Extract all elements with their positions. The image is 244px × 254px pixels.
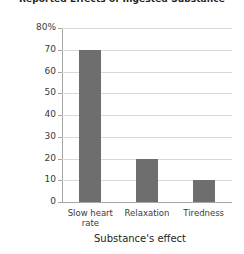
gridline bbox=[62, 28, 232, 29]
y-axis-tick bbox=[58, 159, 62, 160]
y-axis-tick-label: 20 bbox=[10, 154, 56, 163]
y-axis-tick-labels: 01020304050607080% bbox=[8, 0, 56, 254]
y-axis-tick bbox=[58, 72, 62, 73]
y-axis-tick-label: 70 bbox=[10, 45, 56, 54]
gridline bbox=[62, 202, 232, 203]
y-axis-tick bbox=[58, 28, 62, 29]
y-axis-tick-label: 30 bbox=[10, 132, 56, 141]
bar bbox=[79, 50, 101, 202]
y-axis-tick-label: 0 bbox=[10, 197, 56, 206]
x-axis-tick-label-line: rate bbox=[56, 218, 124, 228]
bar bbox=[136, 159, 158, 203]
bar-chart: Reported Effects of Ingested Substance F… bbox=[0, 0, 244, 254]
plot-inner bbox=[62, 28, 232, 202]
y-axis-tick-label: 80% bbox=[10, 23, 56, 32]
y-axis-tick bbox=[58, 202, 62, 203]
y-axis-tick bbox=[58, 180, 62, 181]
y-axis-tick bbox=[58, 50, 62, 51]
x-axis-tick-label-line: Tiredness bbox=[170, 208, 238, 218]
plot-area bbox=[62, 28, 232, 202]
y-axis-tick-label: 10 bbox=[10, 175, 56, 184]
x-axis-tick-label: Tiredness bbox=[170, 208, 238, 218]
y-axis-tick-label: 50 bbox=[10, 88, 56, 97]
x-axis-title: Substance's effect bbox=[40, 233, 240, 244]
bar bbox=[193, 180, 215, 202]
y-axis-tick-label: 60 bbox=[10, 67, 56, 76]
y-axis-tick bbox=[58, 115, 62, 116]
y-axis-tick bbox=[58, 137, 62, 138]
y-axis-tick-label: 40 bbox=[10, 110, 56, 119]
y-axis-tick bbox=[58, 93, 62, 94]
